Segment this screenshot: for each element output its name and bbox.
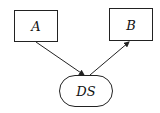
node-ds-label: DS: [75, 84, 95, 99]
edge-ds-to-b-arrow: [90, 42, 129, 75]
node-b: B: [110, 9, 153, 41]
node-b-label: B: [125, 18, 136, 33]
node-ds: DS: [60, 76, 113, 107]
diagram-canvas: A B DS: [0, 0, 160, 113]
edge-a-to-ds-arrow: [36, 42, 84, 75]
node-a: A: [15, 11, 58, 42]
node-a-label: A: [30, 19, 40, 34]
